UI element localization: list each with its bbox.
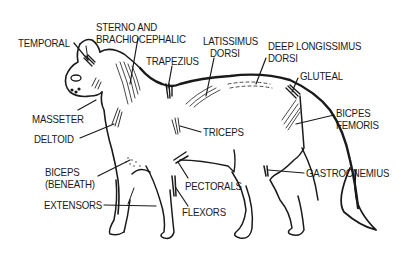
label-text: STERNO AND xyxy=(96,21,186,33)
biceps-stipple xyxy=(125,157,140,166)
masseter-hatch xyxy=(92,78,101,89)
label-text: DORSI xyxy=(268,52,361,64)
gastrocnemius-hatch xyxy=(264,166,268,176)
label-deep-longissimus-dorsi: DEEP LONGISSIMUS DORSI xyxy=(268,40,361,64)
label-text: LATISSIMUS xyxy=(203,35,258,47)
label-text: TRAPEZIUS xyxy=(146,55,199,67)
label-sterno-brachiocephalic: STERNO AND BRACHIOCEPHALIC xyxy=(96,21,186,45)
label-flexors: FLEXORS xyxy=(182,206,226,218)
label-gluteal: GLUTEAL xyxy=(300,70,343,82)
flexors-hatch xyxy=(172,176,176,196)
triceps-hatch xyxy=(172,118,180,134)
label-text: PECTORALS xyxy=(185,180,242,192)
label-extensors: EXTENSORS xyxy=(44,199,102,211)
biceps-femoris-hatch xyxy=(282,100,300,130)
label-text: BICPES xyxy=(336,107,379,119)
label-biceps-beneath: BICEPS (BENEATH) xyxy=(45,166,95,190)
label-text: BRACHIOCEPHALIC xyxy=(96,33,186,45)
label-trapezius: TRAPEZIUS xyxy=(146,55,199,67)
label-text: DORSI xyxy=(203,47,258,59)
label-text: GASTROCNEMIUS xyxy=(306,167,389,179)
label-temporal: TEMPORAL xyxy=(18,37,70,49)
label-text: DEEP LONGISSIMUS xyxy=(268,40,361,52)
neck-hatch xyxy=(116,62,140,104)
label-text: TEMPORAL xyxy=(18,37,70,49)
label-text: BICEPS xyxy=(45,166,95,178)
label-text: MASSETER xyxy=(32,113,84,125)
label-text: FEMORIS xyxy=(336,119,379,131)
label-gastrocnemius: GASTROCNEMIUS xyxy=(306,167,389,179)
gluteal-hatch xyxy=(286,85,300,98)
longissimus-dashes xyxy=(228,82,272,88)
label-pectorals: PECTORALS xyxy=(185,180,242,192)
label-bicpes-femoris: BICPES FEMORIS xyxy=(336,107,379,131)
label-deltoid: DELTOID xyxy=(34,133,74,145)
latissimus-hatch xyxy=(186,86,220,107)
label-masseter: MASSETER xyxy=(32,113,84,125)
cat-muscle-diagram: TEMPORAL STERNO AND BRACHIOCEPHALIC TRAP… xyxy=(0,0,414,265)
label-text: FLEXORS xyxy=(182,206,226,218)
label-text: TRICEPS xyxy=(203,126,244,138)
label-text: GLUTEAL xyxy=(300,70,343,82)
label-text: DELTOID xyxy=(34,133,74,145)
pectorals-hatch xyxy=(174,152,188,163)
label-triceps: TRICEPS xyxy=(203,126,244,138)
label-text: (BENEATH) xyxy=(45,178,95,190)
label-text: EXTENSORS xyxy=(44,199,102,211)
label-latissimus-dorsi: LATISSIMUS DORSI xyxy=(203,35,258,59)
